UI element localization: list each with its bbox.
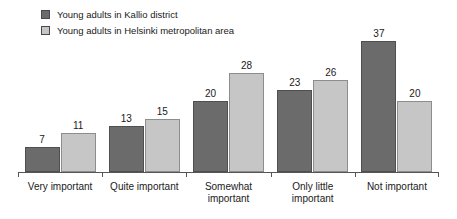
bar-value-label: 20: [409, 88, 420, 99]
bar-value-label: 15: [157, 106, 168, 117]
bar-slot: 13: [109, 14, 144, 172]
bar-chart: Young adults in Kallio district Young ad…: [0, 0, 457, 219]
bar-group: 2028: [186, 14, 270, 172]
axis-tick: [102, 172, 103, 177]
x-axis-label: Only littleimportant: [271, 181, 355, 205]
bar-value-label: 23: [289, 77, 300, 88]
axis-tick: [186, 172, 187, 177]
bar-value-label: 37: [373, 28, 384, 39]
bar-slot: 20: [193, 14, 228, 172]
x-axis-label: Somewhatimportant: [186, 181, 270, 205]
bar[interactable]: [25, 147, 60, 172]
bar[interactable]: [109, 126, 144, 172]
x-axis-label: Very important: [18, 181, 102, 205]
bar[interactable]: [277, 90, 312, 172]
bar-value-label: 28: [241, 60, 252, 71]
bar[interactable]: [361, 41, 396, 172]
bar[interactable]: [61, 133, 96, 172]
bar-value-label: 26: [325, 67, 336, 78]
bar-groups: 7111315202823263720: [18, 14, 439, 172]
bar-group: 3720: [355, 14, 439, 172]
bar-slot: 37: [361, 14, 396, 172]
bar-slot: 7: [25, 14, 60, 172]
bar-slot: 11: [61, 14, 96, 172]
bar-value-label: 13: [121, 113, 132, 124]
axis-tick: [271, 172, 272, 177]
x-axis: [18, 172, 439, 178]
x-axis-labels: Very importantQuite importantSomewhatimp…: [18, 181, 439, 205]
x-axis-line: [18, 172, 439, 173]
bar-value-label: 20: [205, 88, 216, 99]
bar[interactable]: [193, 101, 228, 172]
bar[interactable]: [313, 80, 348, 172]
x-axis-label: Quite important: [102, 181, 186, 205]
bar[interactable]: [229, 73, 264, 172]
bar-group: 2326: [271, 14, 355, 172]
bar-slot: 20: [397, 14, 432, 172]
bar-slot: 15: [145, 14, 180, 172]
axis-tick: [438, 172, 439, 177]
bar-group: 711: [18, 14, 102, 172]
bar[interactable]: [397, 101, 432, 172]
axis-tick: [18, 172, 19, 177]
bar-group: 1315: [102, 14, 186, 172]
bar-value-label: 11: [73, 120, 83, 131]
x-axis-label: Not important: [355, 181, 439, 205]
axis-tick: [355, 172, 356, 177]
plot-area: 7111315202823263720: [18, 14, 439, 172]
bar-value-label: 7: [39, 134, 45, 145]
bar-slot: 23: [277, 14, 312, 172]
bar-slot: 26: [313, 14, 348, 172]
bar-slot: 28: [229, 14, 264, 172]
bar[interactable]: [145, 119, 180, 172]
